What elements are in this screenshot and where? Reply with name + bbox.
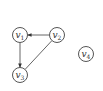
node-v3: v3 xyxy=(13,68,28,83)
edge-v2-v3 xyxy=(25,41,52,70)
node-v1: v1 xyxy=(13,28,28,43)
node-v2: v2 xyxy=(50,28,65,43)
graph-diagram: v1 v2 v3 v4 xyxy=(0,0,103,91)
node-v4: v4 xyxy=(79,47,94,62)
